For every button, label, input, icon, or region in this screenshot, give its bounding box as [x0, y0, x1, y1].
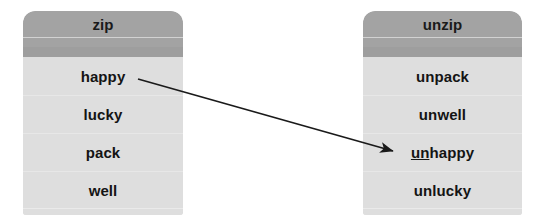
- panel-prefixed-words-body: unpack unwell unhappy unlucky: [363, 57, 522, 215]
- list-item-label: unwell: [419, 106, 466, 123]
- list-item[interactable]: lucky: [23, 95, 183, 133]
- list-item[interactable]: well: [23, 171, 183, 209]
- list-item[interactable]: unpack: [363, 57, 522, 95]
- panel-base-words: zip happy lucky pack well: [23, 11, 183, 215]
- header-hairline: [23, 37, 183, 38]
- list-item-label: happy: [81, 68, 126, 85]
- stem-text: happy: [429, 144, 474, 161]
- header-hairline: [363, 37, 522, 38]
- list-item-label: unpack: [416, 68, 469, 85]
- list-item[interactable]: pack: [23, 133, 183, 171]
- panel-base-words-header: zip: [23, 11, 183, 47]
- list-item[interactable]: unlucky: [363, 171, 522, 209]
- word-formation-diagram: zip happy lucky pack well unzip: [0, 0, 539, 224]
- panel-base-words-body: happy lucky pack well: [23, 57, 183, 215]
- panel-prefixed-words-title: unzip: [363, 16, 522, 33]
- panel-prefixed-words-header: unzip: [363, 11, 522, 47]
- prefix-underlined: un: [411, 144, 430, 161]
- header-lower-band: [363, 47, 522, 57]
- header-lower-band: [23, 47, 183, 57]
- list-item-label: well: [89, 182, 118, 199]
- list-item[interactable]: unwell: [363, 95, 522, 133]
- list-item-label: pack: [86, 144, 121, 161]
- list-item-label: unlucky: [414, 182, 471, 199]
- panel-prefixed-words: unzip unpack unwell unhappy unlucky: [363, 11, 522, 215]
- list-item-label: unhappy: [411, 144, 474, 161]
- list-item-label: lucky: [84, 106, 123, 123]
- list-item-highlighted[interactable]: unhappy: [363, 133, 522, 171]
- list-item[interactable]: happy: [23, 57, 183, 95]
- panel-base-words-title: zip: [23, 16, 183, 33]
